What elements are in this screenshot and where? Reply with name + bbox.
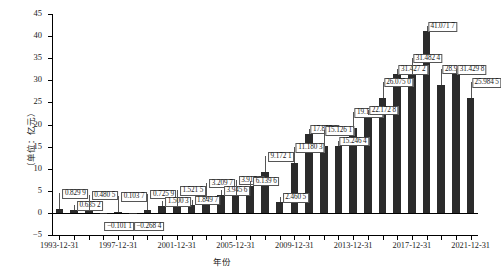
bar (85, 211, 93, 213)
label-leader-line (221, 190, 222, 195)
label-leader-line (471, 82, 472, 98)
bar-value-label: 2.460 5 (283, 193, 309, 203)
bar (173, 206, 181, 213)
bar-value-label: 41.071 7 (428, 22, 457, 32)
y-tick-label: 15 (16, 142, 42, 151)
label-leader-line (294, 147, 295, 163)
bar (320, 146, 328, 213)
y-tick-label: 0 (16, 208, 42, 217)
x-tick (103, 236, 104, 240)
label-leader-line (74, 205, 75, 210)
bar (335, 146, 343, 213)
label-leader-line (118, 196, 119, 212)
y-tick-label: −5 (16, 230, 42, 239)
x-tick (338, 236, 339, 240)
label-leader-line (397, 69, 398, 74)
bar-value-label: 6.139 6 (253, 177, 279, 187)
x-tick (368, 236, 369, 240)
bar-value-label: 31.429 8 (457, 65, 486, 75)
bar (56, 209, 64, 213)
label-leader-line (265, 156, 266, 172)
label-leader-line (177, 190, 178, 206)
bar-value-label: 0.635 2 (77, 201, 103, 211)
x-tick (294, 236, 295, 240)
x-tick-label: 2017-12-31 (393, 241, 432, 250)
bar-value-label: 31.482 4 (413, 54, 442, 64)
x-tick (397, 236, 398, 240)
x-tick (456, 236, 457, 240)
bar (114, 212, 122, 213)
bar-value-label: 1.500 3 (165, 197, 191, 207)
bar-value-label: 3.945 6 (224, 186, 250, 196)
label-leader-line (427, 26, 428, 31)
bar-value-label: 9.172 1 (268, 152, 294, 162)
bar (467, 98, 475, 213)
bar-value-label: 15.246 4 (340, 137, 369, 147)
bar (393, 74, 401, 213)
x-tick (89, 236, 90, 240)
label-leader-line (353, 112, 354, 128)
bar (437, 85, 445, 213)
label-leader-line (441, 69, 442, 85)
x-tick-label: 2013-12-31 (334, 241, 373, 250)
bar-value-label: 15.126 1 (325, 126, 354, 136)
bar (100, 213, 108, 214)
label-leader-line (89, 195, 90, 211)
y-tick-label: 30 (16, 75, 42, 84)
x-tick (192, 236, 193, 240)
x-tick (206, 236, 207, 240)
label-leader-line (338, 141, 339, 146)
y-tick-label: 10 (16, 164, 42, 173)
x-axis-title: 年份 (213, 255, 231, 267)
bar-value-label: 11.180 3 (296, 143, 325, 153)
x-tick (162, 236, 163, 240)
x-tick-label: 2005-12-31 (216, 241, 255, 250)
label-leader-line (59, 193, 60, 209)
x-tick (265, 236, 266, 240)
bar (408, 74, 416, 213)
x-tick-label: 2009-12-31 (275, 241, 314, 250)
label-leader-line (412, 58, 413, 74)
label-leader-line (456, 69, 457, 74)
x-tick (177, 236, 178, 240)
y-tick-label: 5 (16, 186, 42, 195)
bar (144, 210, 152, 213)
bar-value-label: 1.521 5 (180, 186, 206, 196)
x-tick (74, 236, 75, 240)
y-tick-label: 45 (16, 9, 42, 18)
bar-value-label: 31.427 2 (399, 65, 428, 75)
x-tick (280, 236, 281, 240)
bar-value-label: 1.849 7 (195, 196, 221, 206)
bar-value-label: 0.480 5 (92, 191, 118, 201)
x-tick (59, 236, 60, 240)
x-tick (412, 236, 413, 240)
x-tick (309, 236, 310, 240)
bar-value-label: 22.172 8 (369, 106, 398, 116)
label-leader-line (162, 201, 163, 206)
x-tick (427, 236, 428, 240)
x-tick-label: 2001-12-31 (158, 241, 197, 250)
label-leader-line (236, 180, 237, 196)
x-tick (324, 236, 325, 240)
y-tick-label: 35 (16, 53, 42, 62)
bar (452, 74, 460, 213)
bar (364, 115, 372, 213)
x-tick (236, 236, 237, 240)
x-tick (383, 236, 384, 240)
bar-value-label: 25.984 5 (472, 78, 501, 88)
y-tick-label: 25 (16, 97, 42, 106)
x-tick (118, 236, 119, 240)
y-tick-label: 40 (16, 31, 42, 40)
bar-value-label: −0.101 1 (104, 222, 134, 232)
x-tick-label: 1993-12-31 (40, 241, 79, 250)
label-leader-line (309, 129, 310, 134)
label-leader-line (368, 110, 369, 115)
bar (276, 202, 284, 213)
bar-value-label: 0.103 7 (121, 192, 147, 202)
bar-value-label: −0.268 4 (134, 222, 164, 232)
label-leader-line (280, 197, 281, 202)
x-tick (471, 236, 472, 240)
y-axis-title: （单位：亿元） (24, 107, 36, 170)
x-tick (250, 236, 251, 240)
